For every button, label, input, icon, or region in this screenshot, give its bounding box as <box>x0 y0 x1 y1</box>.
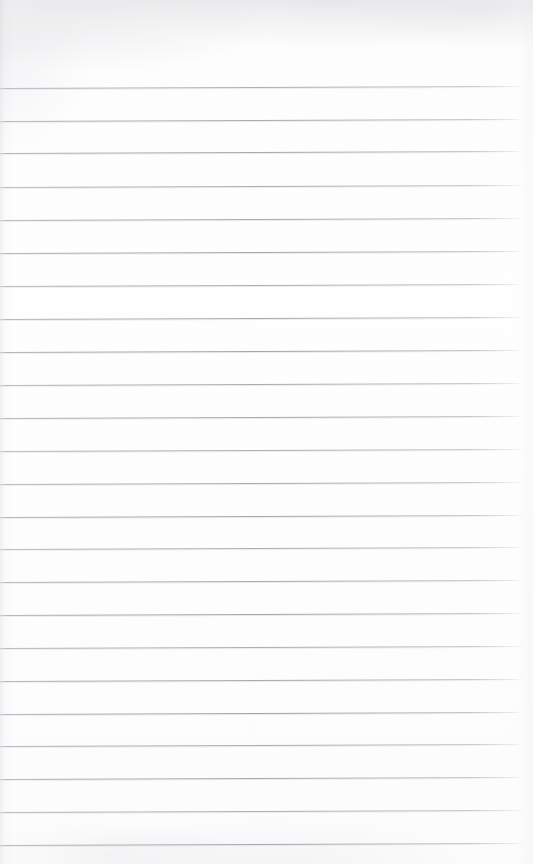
page-content-area <box>0 0 533 864</box>
scanned-page <box>0 0 533 864</box>
